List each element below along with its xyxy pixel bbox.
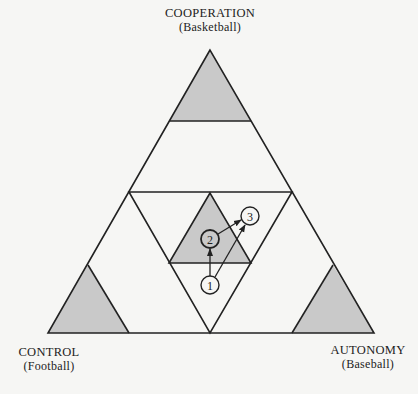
football-sublabel: (Football) xyxy=(0,359,98,373)
autonomy-label: AUTONOMY xyxy=(318,343,418,357)
node-3-label: 3 xyxy=(247,210,253,224)
shaded-bottom-left-corner xyxy=(48,265,129,333)
control-label: CONTROL xyxy=(0,345,98,359)
vertex-label-cooperation: COOPERATION (Basketball) xyxy=(150,6,270,34)
node-1: 1 xyxy=(201,276,219,294)
basketball-sublabel: (Basketball) xyxy=(150,20,270,34)
node-2: 2 xyxy=(201,230,219,248)
node-3: 3 xyxy=(241,207,259,225)
shaded-bottom-right-corner xyxy=(292,265,374,333)
vertex-label-autonomy: AUTONOMY (Baseball) xyxy=(318,343,418,371)
triangle-diagram: 1 2 3 xyxy=(0,0,418,394)
vertex-label-control: CONTROL (Football) xyxy=(0,345,98,373)
baseball-sublabel: (Baseball) xyxy=(318,357,418,371)
node-2-label: 2 xyxy=(207,233,213,247)
shaded-top-corner xyxy=(170,50,251,121)
node-1-label: 1 xyxy=(207,279,213,293)
cooperation-label: COOPERATION xyxy=(150,6,270,20)
